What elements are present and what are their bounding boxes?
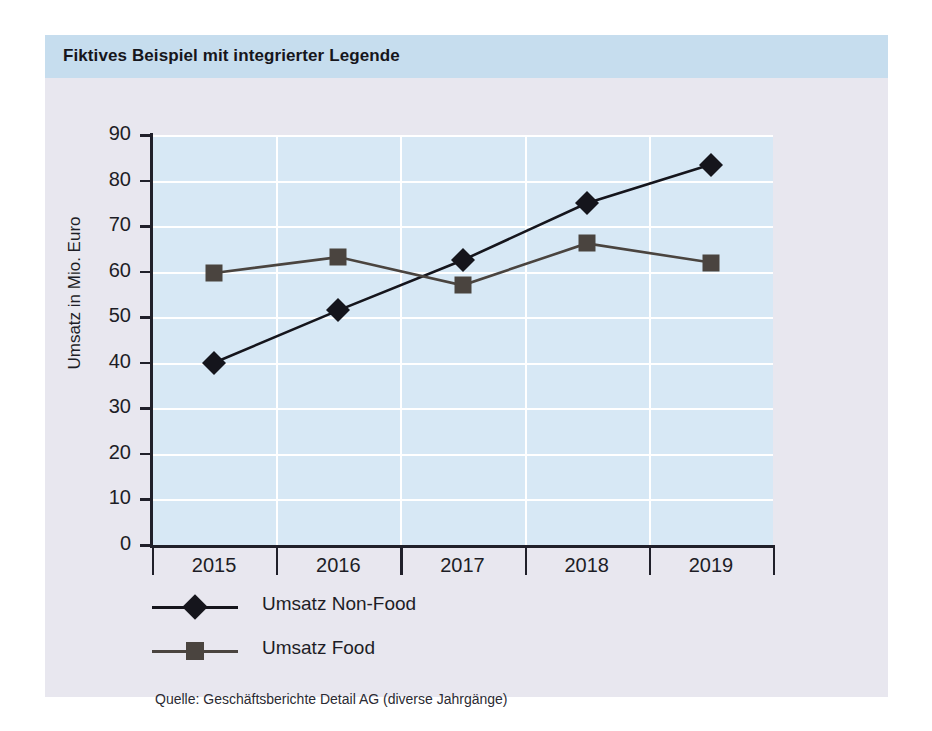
y-tick-mark <box>140 271 151 274</box>
gridline-horizontal <box>152 226 773 228</box>
y-tick-mark <box>140 316 151 319</box>
legend-diamond-icon <box>182 594 207 619</box>
legend-label: Umsatz Food <box>262 637 375 659</box>
x-category-label: 2019 <box>649 554 773 577</box>
gridline-vertical <box>649 135 651 545</box>
plot-area <box>152 135 773 545</box>
y-tick-label: 50 <box>85 304 131 327</box>
gridline-horizontal <box>152 499 773 501</box>
gridline-horizontal <box>152 181 773 183</box>
y-tick-mark <box>140 544 151 547</box>
plot-background <box>152 135 773 545</box>
y-tick-mark <box>140 407 151 410</box>
y-axis-line <box>150 133 153 547</box>
y-tick-mark <box>140 362 151 365</box>
data-point-marker <box>702 254 719 271</box>
y-tick-mark <box>140 498 151 501</box>
y-tick-label: 30 <box>85 395 131 418</box>
gridline-horizontal <box>152 408 773 410</box>
x-category-label: 2017 <box>400 554 524 577</box>
gridline-vertical <box>400 135 402 545</box>
y-tick-label: 80 <box>85 168 131 191</box>
y-tick-mark <box>140 225 151 228</box>
y-tick-mark <box>140 180 151 183</box>
gridline-horizontal <box>152 135 773 137</box>
y-tick-label: 0 <box>85 532 131 555</box>
data-point-marker <box>578 235 595 252</box>
x-category-label: 2016 <box>276 554 400 577</box>
y-tick-label: 90 <box>85 122 131 145</box>
y-tick-label: 40 <box>85 350 131 373</box>
gridline-vertical <box>525 135 527 545</box>
x-axis-line <box>150 545 775 548</box>
y-tick-mark <box>140 134 151 137</box>
y-tick-label: 20 <box>85 441 131 464</box>
chart-title: Fiktives Beispiel mit integrierter Legen… <box>63 46 400 66</box>
source-note: Quelle: Geschäftsberichte Detail AG (div… <box>155 691 508 707</box>
y-tick-label: 10 <box>85 486 131 509</box>
gridline-horizontal <box>152 317 773 319</box>
chart-body: 0102030405060708090 Umsatz in Mio. Euro … <box>45 78 888 697</box>
x-category-label: 2018 <box>525 554 649 577</box>
gridline-horizontal <box>152 454 773 456</box>
y-tick-label: 70 <box>85 213 131 236</box>
y-tick-label: 60 <box>85 259 131 282</box>
x-category-separator <box>773 548 775 575</box>
gridline-vertical <box>276 135 278 545</box>
legend-square-icon <box>186 642 204 660</box>
x-category-label: 2015 <box>152 554 276 577</box>
data-point-marker <box>454 277 471 294</box>
legend-label: Umsatz Non-Food <box>262 593 416 615</box>
y-tick-mark <box>140 453 151 456</box>
data-point-marker <box>206 265 223 282</box>
gridline-horizontal <box>152 363 773 365</box>
y-axis-title: Umsatz in Mio. Euro <box>65 153 85 433</box>
chart-header-bar: Fiktives Beispiel mit integrierter Legen… <box>45 35 888 78</box>
data-point-marker <box>330 249 347 266</box>
figure-card: Fiktives Beispiel mit integrierter Legen… <box>45 35 888 697</box>
